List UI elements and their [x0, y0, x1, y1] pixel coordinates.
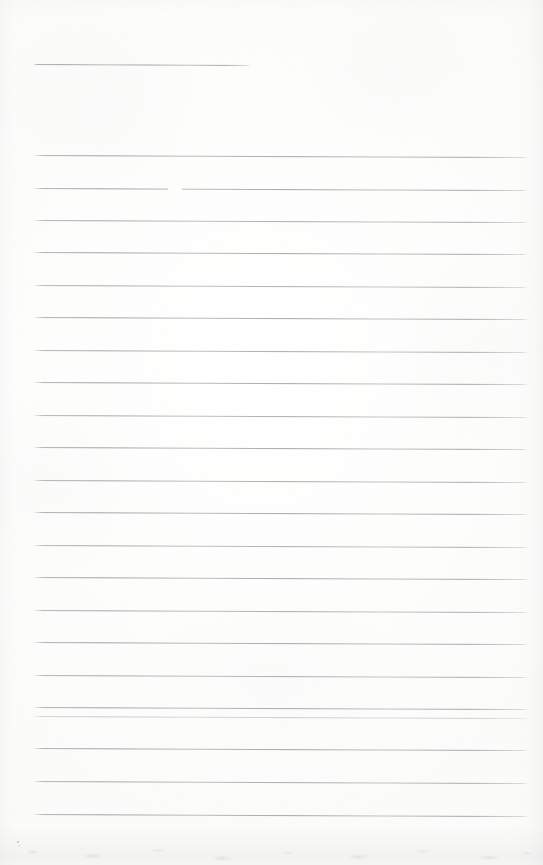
rule-line	[33, 512, 528, 515]
ink-speck	[17, 841, 19, 843]
rule-line	[33, 480, 528, 483]
rule-line	[33, 188, 528, 191]
rule-line	[33, 220, 528, 223]
rule-line	[33, 781, 528, 784]
rule-line	[33, 350, 528, 353]
rule-line	[33, 64, 250, 66]
rule-line-gap	[168, 187, 182, 190]
rule-line	[33, 707, 528, 710]
scanned-page	[0, 0, 543, 865]
rule-line	[33, 415, 528, 418]
rule-line	[33, 748, 528, 751]
bottom-smudge-speckle	[0, 831, 543, 865]
rule-line	[33, 814, 528, 817]
rule-line	[33, 642, 528, 645]
page-edge-shadow-top	[0, 0, 543, 14]
ruled-lines-layer	[0, 0, 543, 865]
page-edge-shadow-left	[0, 0, 18, 865]
rule-line	[33, 545, 528, 548]
rule-line	[33, 252, 528, 255]
rule-line	[33, 675, 528, 678]
paper-grain-texture	[0, 0, 543, 865]
rule-line	[33, 447, 528, 450]
rule-line	[33, 317, 528, 320]
rule-line	[33, 285, 528, 288]
rule-line	[33, 155, 528, 158]
bottom-scan-shadow	[0, 823, 543, 865]
rule-line	[33, 577, 528, 580]
rule-line	[33, 716, 528, 719]
rule-line	[33, 382, 528, 385]
ink-speck	[19, 845, 20, 846]
paper-tone-variation	[0, 0, 543, 865]
page-edge-shadow-right	[517, 0, 543, 865]
rule-line	[33, 610, 528, 613]
